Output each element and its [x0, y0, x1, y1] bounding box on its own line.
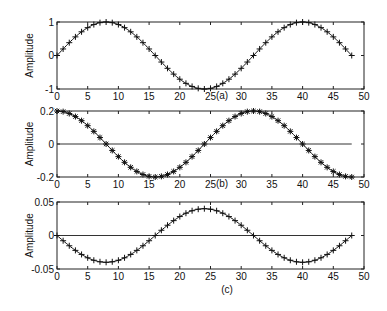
- y-tick-label: -1: [45, 84, 54, 95]
- x-tick-label: 25: [205, 179, 217, 190]
- y-tick-label: -0.05: [31, 264, 54, 275]
- x-tick-label: 50: [358, 271, 370, 282]
- panel-label: (c): [221, 284, 233, 295]
- axes-box: [57, 22, 364, 89]
- y-tick-label: 0: [48, 50, 54, 61]
- x-tick-label: 50: [358, 179, 370, 190]
- x-tick-label: 45: [328, 91, 340, 102]
- y-axis-label: Amplitude: [24, 213, 35, 258]
- x-tick-label: 20: [174, 271, 186, 282]
- chart-figure: 05101520253035404550-101Amplitude(a)0510…: [0, 0, 387, 311]
- x-tick-label: 20: [174, 179, 186, 190]
- y-tick-label: 0.05: [35, 197, 55, 208]
- x-tick-label: 15: [144, 91, 156, 102]
- y-tick-label: -0.2: [37, 172, 55, 183]
- x-tick-label: 40: [297, 91, 309, 102]
- x-tick-label: 0: [54, 271, 60, 282]
- x-tick-label: 10: [113, 179, 125, 190]
- x-tick-label: 15: [144, 179, 156, 190]
- subplot-c: 05101520253035404550-0.0500.05Amplitude(…: [24, 197, 370, 296]
- y-tick-label: 0.2: [40, 106, 54, 117]
- signal-line: [57, 22, 352, 89]
- x-tick-label: 50: [358, 91, 370, 102]
- x-tick-label: 10: [113, 91, 125, 102]
- x-tick-label: 40: [297, 179, 309, 190]
- subplot-a: 05101520253035404550-101Amplitude(a): [24, 17, 370, 103]
- y-tick-label: 0: [48, 230, 54, 241]
- y-axis-label: Amplitude: [24, 33, 35, 78]
- x-tick-label: 5: [85, 179, 91, 190]
- x-tick-label: 35: [266, 179, 278, 190]
- y-tick-label: 1: [48, 17, 54, 28]
- x-tick-label: 45: [328, 271, 340, 282]
- x-tick-label: 5: [85, 271, 91, 282]
- x-tick-label: 20: [174, 91, 186, 102]
- x-tick-label: 10: [113, 271, 125, 282]
- y-tick-label: 0: [48, 139, 54, 150]
- x-tick-label: 35: [266, 91, 278, 102]
- y-axis-label: Amplitude: [24, 121, 35, 166]
- x-tick-label: 30: [236, 179, 248, 190]
- x-tick-label: 25: [205, 271, 217, 282]
- x-tick-label: 40: [297, 271, 309, 282]
- x-tick-label: 45: [328, 179, 340, 190]
- x-tick-label: 25: [205, 91, 217, 102]
- subplot-b: 05101520253035404550-0.200.2Amplitude(b): [24, 106, 370, 191]
- x-tick-label: 5: [85, 91, 91, 102]
- x-tick-label: 35: [266, 271, 278, 282]
- x-tick-label: 0: [54, 91, 60, 102]
- x-tick-label: 30: [236, 91, 248, 102]
- x-tick-label: 30: [236, 271, 248, 282]
- markers: [54, 19, 355, 92]
- x-tick-label: 0: [54, 179, 60, 190]
- x-tick-label: 15: [144, 271, 156, 282]
- panel-label: (b): [216, 178, 228, 189]
- panel-label: (a): [216, 90, 228, 101]
